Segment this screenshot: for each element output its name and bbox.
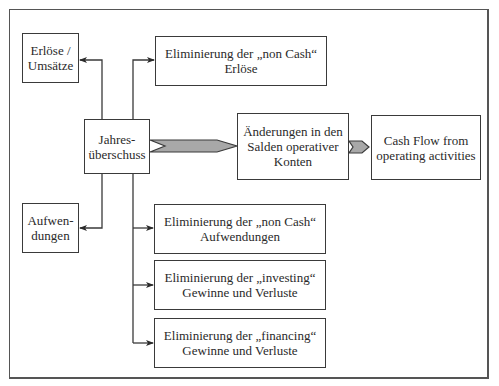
node-text: Erlöse xyxy=(165,61,317,76)
node-erloese-umsaetze: Erlöse /Umsätze xyxy=(22,33,79,83)
node-cash-flow-operating: Cash Flow fromoperating activities xyxy=(371,115,481,180)
arrow-to-erloese xyxy=(80,60,102,119)
chevron-arrow-main xyxy=(150,140,237,152)
node-text: Salden operativer xyxy=(243,139,343,154)
arrow-to-aufwendungen xyxy=(80,173,102,228)
node-text: dungen xyxy=(27,228,73,243)
node-aenderungen-salden: Änderungen in denSalden operativerKonten xyxy=(237,113,349,180)
node-jahresueberschuss: Jahres-überschuss xyxy=(84,119,150,174)
node-text: Eliminierung der „investing“ xyxy=(165,270,316,285)
node-elim-noncash-aufwendungen: Eliminierung der „non Cash“Aufwendungen xyxy=(154,204,326,254)
node-elim-investing: Eliminierung der „investing“Gewinne und … xyxy=(154,260,326,310)
node-text: Cash Flow from xyxy=(376,133,475,148)
node-elim-financing: Eliminierung der „financing“Gewinne und … xyxy=(154,318,326,368)
node-text: Umsätze xyxy=(28,58,73,73)
node-text: Erlöse / xyxy=(28,43,73,58)
node-text: Jahres- xyxy=(88,132,145,147)
node-text: Konten xyxy=(243,154,343,169)
node-text: Eliminierung der „financing“ xyxy=(164,328,316,343)
node-text: überschuss xyxy=(88,147,145,162)
node-text: Aufwendungen xyxy=(164,229,316,244)
arrow-to-elim-erloese xyxy=(133,60,154,119)
node-text: Gewinne und Verluste xyxy=(165,285,316,300)
node-text: Aufwen- xyxy=(27,213,73,228)
node-text: Änderungen in den xyxy=(243,124,343,139)
chevron-arrow-small xyxy=(349,141,369,153)
node-aufwendungen: Aufwen-dungen xyxy=(22,203,79,253)
node-text: operating activities xyxy=(376,148,475,163)
node-text: Gewinne und Verluste xyxy=(164,343,316,358)
node-elim-noncash-erloese: Eliminierung der „non Cash“Erlöse xyxy=(155,36,327,86)
node-text: Eliminierung der „non Cash“ xyxy=(164,214,316,229)
node-text: Eliminierung der „non Cash“ xyxy=(165,46,317,61)
